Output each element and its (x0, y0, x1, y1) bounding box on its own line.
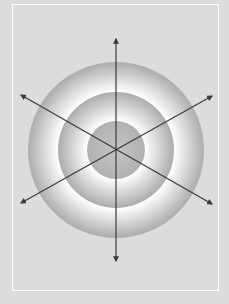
concentric-arrows-diagram (0, 0, 229, 304)
